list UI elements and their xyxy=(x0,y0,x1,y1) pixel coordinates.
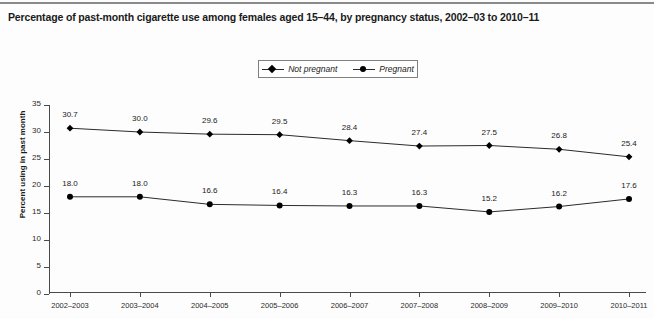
data-point-marker xyxy=(67,125,74,132)
data-point-marker xyxy=(137,194,143,200)
y-axis-tick-label: 10 xyxy=(15,234,41,243)
y-axis-tick-label: 5 xyxy=(15,261,41,270)
data-point-marker xyxy=(206,131,213,138)
circle-marker-icon xyxy=(353,65,375,74)
x-axis-tick-label: 2006–2007 xyxy=(320,301,380,310)
legend-item-pregnant: Pregnant xyxy=(353,64,414,74)
x-axis-tick xyxy=(350,293,351,297)
data-point-label: 15.2 xyxy=(469,194,509,203)
data-point-label: 16.4 xyxy=(260,187,300,196)
x-axis-tick-label: 2008–2009 xyxy=(459,301,519,310)
x-axis-tick xyxy=(489,293,490,297)
data-point-label: 30.7 xyxy=(50,110,90,119)
y-axis-tick-label: 20 xyxy=(15,180,41,189)
x-axis-tick xyxy=(629,293,630,297)
data-point-marker xyxy=(416,203,422,209)
data-point-marker xyxy=(276,131,283,138)
data-point-label: 28.4 xyxy=(330,123,370,132)
x-axis-tick-label: 2002–2003 xyxy=(40,301,100,310)
data-point-label: 16.2 xyxy=(539,189,579,198)
data-point-marker xyxy=(416,143,423,150)
data-point-label: 26.8 xyxy=(539,131,579,140)
data-point-label: 25.4 xyxy=(609,139,649,148)
plot-area: 051015202530352002–20032003–20042004–200… xyxy=(49,105,646,293)
data-point-label: 29.5 xyxy=(260,117,300,126)
x-axis-tick-label: 2009–2010 xyxy=(529,301,589,310)
chart-legend: Not pregnantPregnant xyxy=(258,60,418,78)
y-axis-tick xyxy=(44,240,49,241)
header-rule xyxy=(0,2,654,4)
y-axis-tick xyxy=(44,105,49,106)
data-point-marker xyxy=(207,201,213,207)
data-point-label: 18.0 xyxy=(50,179,90,188)
data-point-marker xyxy=(136,129,143,136)
y-axis-tick xyxy=(44,294,49,295)
data-point-label: 16.3 xyxy=(399,188,439,197)
y-axis-tick xyxy=(44,186,49,187)
data-point-label: 30.0 xyxy=(120,114,160,123)
data-point-label: 16.3 xyxy=(330,188,370,197)
x-axis-tick xyxy=(419,293,420,297)
data-point-marker xyxy=(346,137,353,144)
data-point-label: 29.6 xyxy=(190,116,230,125)
page-title: Percentage of past-month cigarette use a… xyxy=(8,11,648,23)
data-point-label: 17.6 xyxy=(609,181,649,190)
data-point-marker xyxy=(486,209,492,215)
x-axis-tick-label: 2005–2006 xyxy=(250,301,310,310)
x-axis-tick xyxy=(280,293,281,297)
data-point-marker xyxy=(626,153,633,160)
y-axis-tick-label: 15 xyxy=(15,207,41,216)
y-axis-tick-label: 30 xyxy=(15,126,41,135)
legend-item-label: Pregnant xyxy=(379,64,414,74)
y-axis-tick xyxy=(44,213,49,214)
legend-item-not-pregnant: Not pregnant xyxy=(262,64,337,74)
data-point-marker xyxy=(67,194,73,200)
data-point-marker xyxy=(486,142,493,149)
x-axis-tick xyxy=(210,293,211,297)
x-axis-tick-label: 2004–2005 xyxy=(180,301,240,310)
chart-page: Percentage of past-month cigarette use a… xyxy=(0,0,654,319)
data-point-marker xyxy=(556,204,562,210)
diamond-marker-icon xyxy=(262,65,284,74)
x-axis-tick-label: 2007–2008 xyxy=(389,301,449,310)
data-point-marker xyxy=(347,203,353,209)
data-point-label: 18.0 xyxy=(120,179,160,188)
data-point-marker xyxy=(277,202,283,208)
x-axis-tick-label: 2003–2004 xyxy=(110,301,170,310)
y-axis-tick xyxy=(44,267,49,268)
y-axis-tick-label: 0 xyxy=(15,288,41,297)
y-axis-tick-label: 35 xyxy=(15,99,41,108)
x-axis-tick xyxy=(559,293,560,297)
data-point-label: 27.4 xyxy=(399,128,439,137)
data-point-marker xyxy=(626,196,632,202)
legend-item-label: Not pregnant xyxy=(288,64,337,74)
x-axis-tick xyxy=(70,293,71,297)
x-axis-tick xyxy=(140,293,141,297)
data-point-marker xyxy=(556,146,563,153)
data-point-label: 27.5 xyxy=(469,128,509,137)
y-axis-tick xyxy=(44,132,49,133)
data-point-label: 16.6 xyxy=(190,186,230,195)
y-axis-tick xyxy=(44,159,49,160)
y-axis-tick-label: 25 xyxy=(15,153,41,162)
x-axis-tick-label: 2010–2011 xyxy=(599,301,654,310)
